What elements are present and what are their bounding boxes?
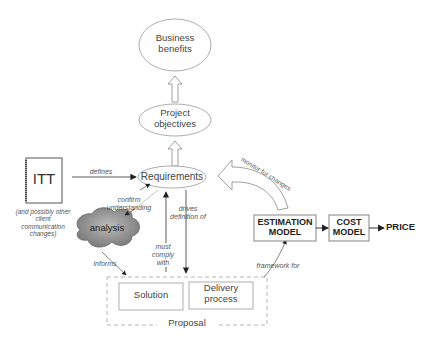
hollow-arrow-icon (168, 76, 182, 102)
confirm-understanding-label: confirm understanding (104, 196, 154, 212)
estimation-model-label: ESTIMATION MODEL (254, 217, 316, 238)
must-comply-label: must comply with (148, 243, 178, 267)
delivery-process-label: Delivery process (191, 283, 251, 305)
itt-label: ITT (26, 170, 62, 187)
analysis-label: analysis (84, 223, 130, 234)
solution-label: Solution (119, 290, 183, 301)
hollow-arrow-icon (168, 141, 182, 166)
informs-label: informs (90, 260, 120, 268)
proposal-label: Proposal (157, 318, 217, 329)
drives-definition-label: drives definition of (170, 205, 206, 221)
defines-label: defines (86, 168, 116, 176)
price-label: PRICE (386, 222, 426, 233)
itt-note: (and possibly other client communication… (14, 208, 72, 238)
project-objectives-label: Project objectives (139, 108, 211, 130)
requirements-label: Requirements (138, 171, 206, 183)
business-benefits-label: Business benefits (139, 33, 211, 55)
cost-model-label: COST MODEL (329, 217, 369, 238)
diagram-canvas: Business benefits Project objectives Req… (0, 0, 434, 344)
framework-for-label: framework for (250, 262, 306, 270)
